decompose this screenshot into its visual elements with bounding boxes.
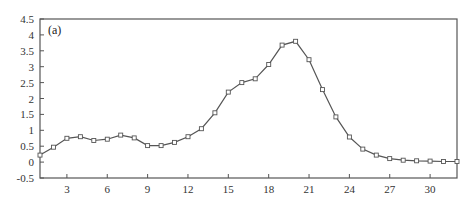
data-point-marker xyxy=(442,160,446,164)
x-tick-label: 27 xyxy=(384,183,396,195)
data-point-marker xyxy=(361,147,365,151)
y-tick-label: 1 xyxy=(29,124,35,136)
x-tick-label: 3 xyxy=(64,183,70,195)
data-point-marker xyxy=(92,139,96,143)
data-point-marker xyxy=(455,160,459,164)
data-point-marker xyxy=(401,158,405,162)
y-tick-label: 1.5 xyxy=(20,108,34,120)
data-point-marker xyxy=(173,140,177,144)
data-point-marker xyxy=(334,115,338,119)
data-point-marker xyxy=(159,144,163,148)
data-line xyxy=(40,41,457,161)
x-tick-label: 30 xyxy=(425,183,437,195)
data-point-marker xyxy=(226,90,230,94)
data-markers xyxy=(38,39,459,163)
data-point-marker xyxy=(132,136,136,140)
data-point-marker xyxy=(267,63,271,67)
data-point-marker xyxy=(428,159,432,163)
data-point-marker xyxy=(280,43,284,47)
y-tick-label: 2.5 xyxy=(20,77,34,89)
x-tick-label: 21 xyxy=(304,183,315,195)
data-point-marker xyxy=(388,157,392,161)
y-tick-label: 3.5 xyxy=(20,45,34,57)
y-tick-label: 4 xyxy=(29,29,35,41)
x-tick-label: 18 xyxy=(263,183,275,195)
y-tick-label: -0.5 xyxy=(17,172,35,184)
data-point-marker xyxy=(374,153,378,157)
x-tick-label: 15 xyxy=(223,183,235,195)
data-point-marker xyxy=(52,145,56,149)
data-point-marker xyxy=(294,39,298,43)
y-tick-label: 2 xyxy=(29,93,35,105)
y-tick-label: 0.5 xyxy=(20,140,34,152)
data-point-marker xyxy=(186,135,190,139)
data-point-marker xyxy=(415,159,419,163)
data-point-marker xyxy=(146,144,150,148)
x-tick-label: 12 xyxy=(182,183,193,195)
data-point-marker xyxy=(307,58,311,62)
data-point-marker xyxy=(65,136,69,140)
x-axis: 36912151821242730 xyxy=(64,174,436,195)
y-tick-label: 3 xyxy=(29,61,35,73)
data-point-marker xyxy=(213,111,217,115)
x-tick-label: 9 xyxy=(145,183,151,195)
data-point-marker xyxy=(321,88,325,92)
x-tick-label: 6 xyxy=(105,183,111,195)
y-tick-label: 0 xyxy=(29,156,35,168)
panel-label: (a) xyxy=(48,23,61,37)
data-point-marker xyxy=(347,135,351,139)
data-point-marker xyxy=(78,135,82,139)
x-tick-label: 24 xyxy=(344,183,356,195)
y-tick-label: 4.5 xyxy=(20,13,34,25)
data-point-marker xyxy=(105,137,109,141)
data-point-marker xyxy=(38,153,42,157)
data-point-marker xyxy=(253,77,257,81)
data-point-marker xyxy=(240,81,244,85)
line-chart: -0.500.511.522.533.544.5 369121518212427… xyxy=(0,0,475,205)
data-point-marker xyxy=(199,127,203,131)
plot-frame xyxy=(40,19,457,178)
data-point-marker xyxy=(119,133,123,137)
